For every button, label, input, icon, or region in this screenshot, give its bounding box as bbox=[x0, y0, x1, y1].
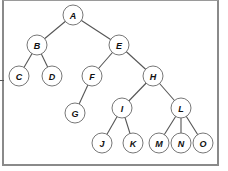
node-label: M bbox=[155, 139, 163, 149]
node-label: N bbox=[178, 139, 185, 149]
node-label: H bbox=[150, 72, 157, 82]
node-label: E bbox=[116, 41, 123, 51]
tree-node-f: F bbox=[82, 66, 102, 86]
tree-node-l: L bbox=[171, 98, 191, 118]
tree-node-m: M bbox=[149, 133, 169, 153]
tree-node-c: C bbox=[9, 66, 29, 86]
node-label: F bbox=[89, 72, 95, 82]
tree-node-h: H bbox=[143, 66, 163, 86]
tree-node-j: J bbox=[92, 133, 112, 153]
node-label: B bbox=[34, 41, 41, 51]
node-label: L bbox=[178, 104, 184, 114]
tree-node-e: E bbox=[109, 35, 129, 55]
tree-canvas: ABECDFHGILJKMNO bbox=[0, 0, 228, 171]
tree-node-d: D bbox=[42, 66, 62, 86]
node-label: C bbox=[16, 72, 23, 82]
node-label: G bbox=[71, 109, 78, 119]
tree-node-o: O bbox=[193, 133, 213, 153]
tree-diagram: ABECDFHGILJKMNO bbox=[0, 0, 228, 171]
node-label: O bbox=[199, 139, 206, 149]
node-label: A bbox=[69, 11, 77, 21]
tree-node-k: K bbox=[123, 133, 143, 153]
tree-node-b: B bbox=[27, 35, 47, 55]
nodes-group: ABECDFHGILJKMNO bbox=[9, 5, 213, 153]
tree-node-g: G bbox=[65, 103, 85, 123]
tree-node-a: A bbox=[63, 5, 83, 25]
node-label: D bbox=[49, 72, 56, 82]
tree-node-i: I bbox=[112, 98, 132, 118]
tree-node-n: N bbox=[171, 133, 191, 153]
